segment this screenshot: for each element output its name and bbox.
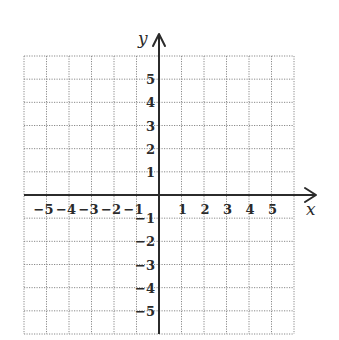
x-tick-labels: −5−4−3−2−112345 (34, 202, 278, 217)
x-tick-label: −2 (101, 202, 121, 217)
y-tick-label: −4 (135, 281, 155, 296)
x-tick-label: 2 (200, 202, 209, 217)
x-tick-label: 5 (268, 202, 277, 217)
y-tick-label: −3 (135, 258, 155, 273)
y-tick-label: 5 (146, 72, 155, 87)
x-tick-label: −4 (56, 202, 76, 217)
y-tick-label: 2 (146, 142, 155, 157)
y-tick-label: −2 (135, 234, 155, 249)
x-tick-label: 3 (223, 202, 232, 217)
y-tick-label: −1 (135, 211, 155, 226)
y-tick-label: −5 (135, 304, 155, 319)
x-tick-label: −5 (34, 202, 54, 217)
y-tick-label: 4 (146, 95, 155, 110)
coordinate-plane: −5−4−3−2−112345 54321−1−2−3−4−5 x y (0, 0, 339, 340)
y-tick-label: 1 (146, 165, 155, 180)
x-axis-label: x (306, 199, 316, 219)
x-tick-label: 1 (178, 202, 187, 217)
x-tick-label: 4 (245, 202, 254, 217)
y-tick-label: 3 (146, 119, 155, 134)
y-axis-label: y (137, 28, 148, 48)
x-tick-label: −3 (79, 202, 99, 217)
